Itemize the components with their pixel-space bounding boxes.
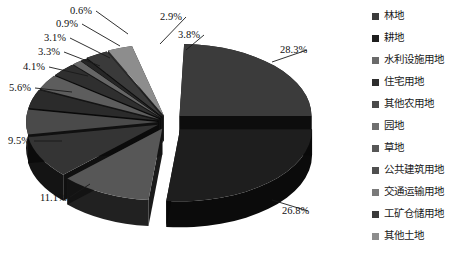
legend-item-5[interactable]: 园地 [372, 120, 404, 132]
legend-label-0: 林地 [384, 11, 404, 22]
legend-swatch-icon-10 [372, 233, 379, 240]
legend-item-0[interactable]: 林地 [372, 10, 404, 22]
legend-swatch-icon-4 [372, 101, 379, 108]
legend-swatch-icon-8 [372, 189, 379, 196]
pie-chart-plot-area: 0.6% 2.9% 0.9% 3.8% 3.1% 3.3% 4.1% 5.6% … [0, 0, 340, 255]
legend-swatch-icon-1 [372, 35, 379, 42]
pct-label-0-6: 0.6% [70, 6, 92, 17]
legend-label-9: 工矿仓储用地 [384, 209, 444, 220]
pct-label-4-1: 4.1% [23, 62, 45, 73]
legend-label-7: 公共建筑用地 [384, 165, 444, 176]
legend-label-1: 耕地 [384, 33, 404, 44]
legend-item-2[interactable]: 水利设施用地 [372, 54, 444, 66]
legend-item-1[interactable]: 耕地 [372, 32, 404, 44]
legend-label-8: 交通运输用地 [384, 187, 444, 198]
pct-label-11-1: 11.1% [40, 193, 67, 204]
legend-item-6[interactable]: 草地 [372, 142, 404, 154]
pct-label-3-1: 3.1% [44, 33, 66, 44]
legend-label-5: 园地 [384, 121, 404, 132]
pct-label-28-3: 28.3% [280, 45, 307, 56]
pct-label-3-8: 3.8% [178, 30, 200, 41]
legend-label-6: 草地 [384, 143, 404, 154]
pct-label-26-8: 26.8% [282, 206, 309, 217]
legend-label-10: 其他土地 [384, 231, 424, 242]
legend-item-8[interactable]: 交通运输用地 [372, 186, 444, 198]
legend-swatch-icon-2 [372, 57, 379, 64]
legend-label-4: 其他农用地 [384, 99, 434, 110]
legend-swatch-icon-0 [372, 13, 379, 20]
pct-label-2-9: 2.9% [160, 12, 182, 23]
pct-label-3-3: 3.3% [38, 47, 60, 58]
legend-item-4[interactable]: 其他农用地 [372, 98, 434, 110]
legend-swatch-icon-3 [372, 79, 379, 86]
pct-label-9-5: 9.5% [8, 136, 30, 147]
legend-item-9[interactable]: 工矿仓储用地 [372, 208, 444, 220]
legend-label-3: 住宅用地 [384, 77, 424, 88]
legend-item-3[interactable]: 住宅用地 [372, 76, 424, 88]
pct-label-5-6: 5.6% [9, 83, 31, 94]
legend-swatch-icon-7 [372, 167, 379, 174]
legend-swatch-icon-6 [372, 145, 379, 152]
legend-swatch-icon-5 [372, 123, 379, 130]
legend-label-2: 水利设施用地 [384, 55, 444, 66]
legend-item-7[interactable]: 公共建筑用地 [372, 164, 444, 176]
legend-item-10[interactable]: 其他土地 [372, 230, 424, 242]
legend-swatch-icon-9 [372, 211, 379, 218]
pie-chart-figure: 0.6% 2.9% 0.9% 3.8% 3.1% 3.3% 4.1% 5.6% … [0, 0, 458, 255]
legend: 林地 耕地 水利设施用地 住宅用地 其他农用地 园地 草地 公共建筑用地 [372, 6, 458, 251]
pct-label-0-9: 0.9% [56, 19, 78, 30]
